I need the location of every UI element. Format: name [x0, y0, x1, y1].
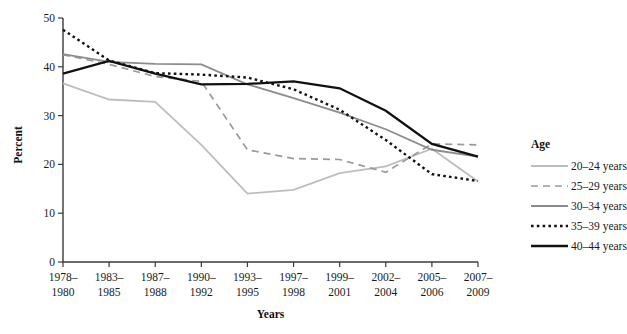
- y-tick-label: 30: [44, 110, 56, 122]
- legend-label-2: 25–29 years: [571, 180, 627, 193]
- x-tick-label: 1992: [190, 286, 213, 298]
- y-tick-label: 50: [44, 12, 56, 24]
- y-axis-title: Percent: [12, 126, 24, 164]
- legend-label-1: 20–24 years: [571, 160, 627, 173]
- chart-figure: 01020304050 1978–19801983–19851987–19881…: [0, 0, 627, 334]
- x-tick-label: 1999–: [325, 271, 354, 283]
- x-axis-group: 1978–19801983–19851987–19881990–19921993…: [49, 262, 493, 298]
- x-tick-label: 1993–: [233, 271, 262, 283]
- legend-label-3: 30–34 years: [571, 200, 627, 213]
- legend: 20–24 years25–29 years30–34 years35–39 y…: [531, 160, 627, 253]
- x-tick-label: 1985: [98, 286, 121, 298]
- series-line-4: [63, 30, 478, 181]
- x-tick-label: 2006: [420, 286, 443, 298]
- x-tick-label: 1988: [144, 286, 167, 298]
- x-tick-label: 1980: [52, 286, 75, 298]
- x-tick-label: 1978–: [49, 271, 78, 283]
- legend-label-5: 40–44 years: [571, 240, 627, 253]
- x-tick-label: 2001: [328, 286, 351, 298]
- x-tick-label: 2005–: [418, 271, 447, 283]
- x-axis-title: Years: [257, 308, 285, 320]
- y-axis-group: 01020304050: [44, 12, 64, 268]
- series-line-1: [63, 83, 478, 193]
- x-tick-label: 1998: [282, 286, 305, 298]
- x-tick-label: 2007–: [464, 271, 493, 283]
- x-tick-label: 2009: [467, 286, 490, 298]
- x-tick-label: 2002–: [371, 271, 400, 283]
- y-tick-label: 10: [44, 207, 56, 219]
- y-tick-label: 40: [44, 61, 56, 73]
- y-tick-label: 20: [44, 158, 56, 170]
- series-line-2: [63, 55, 478, 173]
- y-axis-ticks: 01020304050: [44, 12, 64, 268]
- legend-title: Age: [531, 138, 550, 151]
- x-tick-label: 1983–: [95, 271, 124, 283]
- x-tick-label: 1990–: [187, 271, 216, 283]
- line-chart-canvas: 01020304050 1978–19801983–19851987–19881…: [0, 0, 627, 334]
- legend-label-4: 35–39 years: [571, 220, 627, 233]
- x-tick-label: 1997–: [279, 271, 308, 283]
- x-tick-label: 1995: [236, 286, 259, 298]
- x-tick-label: 1987–: [141, 271, 170, 283]
- x-axis-ticks: 1978–19801983–19851987–19881990–19921993…: [49, 262, 493, 298]
- series-lines-group: [63, 30, 478, 194]
- y-tick-label: 0: [49, 256, 55, 268]
- x-tick-label: 2004: [374, 286, 397, 298]
